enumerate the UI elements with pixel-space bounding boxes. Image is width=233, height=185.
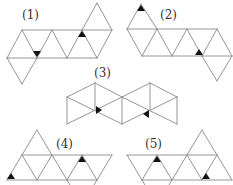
mark-triangle-icon: [195, 49, 203, 55]
octahedron-nets-diagram: (1) (2): [0, 0, 233, 185]
mark-triangle-icon: [7, 173, 15, 179]
net-5: (5): [127, 130, 232, 185]
net-3-edges: [67, 83, 177, 124]
mark-triangle-icon: [78, 31, 86, 37]
mark-triangle-icon: [202, 173, 210, 179]
net-5-edges: [127, 130, 232, 185]
net-4-label: (4): [56, 137, 73, 151]
net-1-label: (1): [22, 8, 39, 22]
net-3: (3): [67, 66, 177, 124]
net-4: (4): [7, 130, 112, 185]
net-5-label: (5): [145, 137, 162, 151]
net-2-label: (2): [160, 8, 177, 22]
net-2-edges: [127, 4, 232, 81]
net-3-label: (3): [94, 66, 111, 80]
net-2: (2): [127, 4, 232, 81]
mark-triangle-icon: [143, 110, 149, 118]
mark-triangle-icon: [33, 51, 41, 57]
